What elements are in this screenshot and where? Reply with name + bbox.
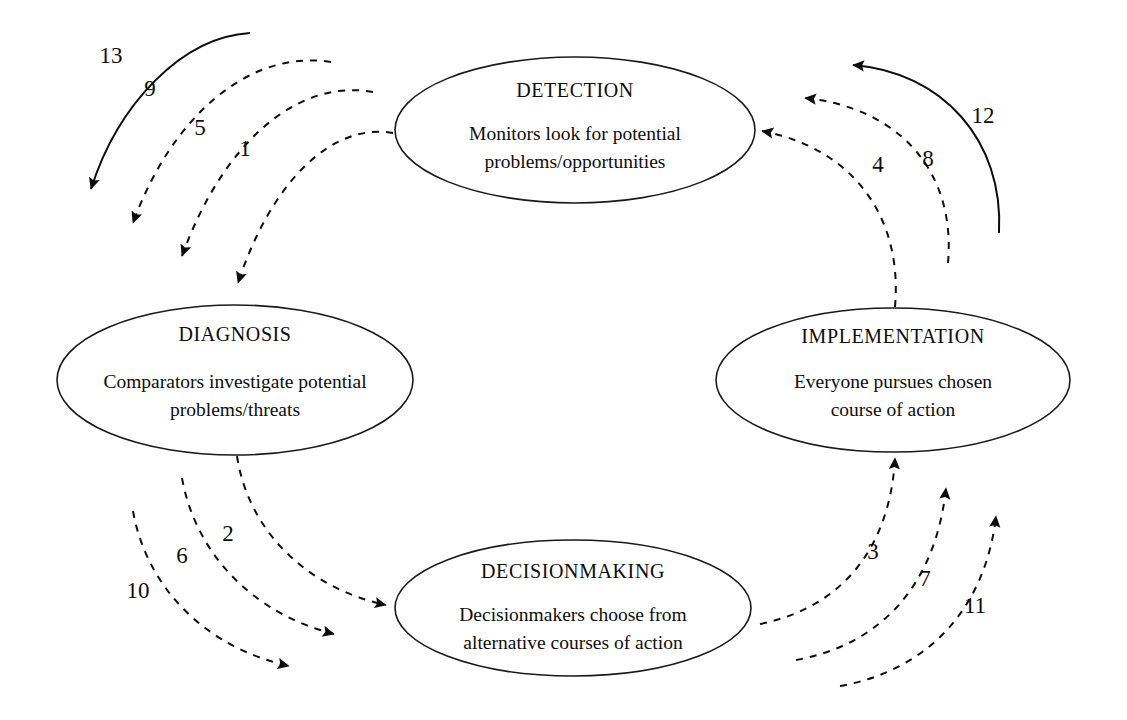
node-diagnosis-desc-line1: Comparators investigate potential — [103, 371, 367, 392]
arrow-path-6 — [182, 478, 334, 634]
node-detection-desc-line2: problems/opportunities — [485, 151, 666, 172]
node-diagnosis[interactable]: DIAGNOSIS Comparators investigate potent… — [57, 305, 413, 455]
node-decisionmaking-desc-line1: Decisionmakers choose from — [459, 604, 686, 625]
node-implementation-desc-line2: course of action — [831, 399, 956, 420]
node-implementation[interactable]: IMPLEMENTATION Everyone pursues chosen c… — [716, 308, 1070, 452]
node-decisionmaking-desc-line2: alternative courses of action — [463, 632, 683, 653]
step-label-6: 6 — [176, 543, 188, 568]
step-label-8: 8 — [922, 146, 934, 171]
arrow-path-2 — [237, 456, 386, 605]
node-detection-title: DETECTION — [516, 79, 634, 101]
step-label-10: 10 — [127, 578, 150, 603]
node-diagnosis-desc-line2: problems/threats — [170, 399, 300, 420]
step-label-12: 12 — [972, 103, 995, 128]
step-label-11: 11 — [964, 593, 986, 618]
node-decisionmaking[interactable]: DECISIONMAKING Decisionmakers choose fro… — [395, 540, 751, 676]
diagram-canvas: DETECTION Monitors look for potential pr… — [0, 0, 1127, 720]
step-label-5: 5 — [194, 115, 206, 140]
arrow-path-9 — [133, 60, 331, 223]
node-implementation-desc-line1: Everyone pursues chosen — [794, 371, 992, 392]
step-label-1: 1 — [239, 136, 251, 161]
step-label-3: 3 — [867, 539, 879, 564]
arrow-group-diagnosis-to-decisionmaking — [133, 456, 386, 666]
step-label-7: 7 — [919, 566, 931, 591]
arrow-path-10 — [133, 511, 289, 666]
arrow-path-8 — [805, 98, 949, 263]
arrow-path-1 — [238, 132, 393, 283]
step-label-13: 13 — [100, 43, 123, 68]
arrow-group-implementation-to-detection — [762, 65, 999, 307]
node-implementation-title: IMPLEMENTATION — [801, 325, 984, 347]
step-label-9: 9 — [144, 76, 156, 101]
step-label-2: 2 — [222, 521, 234, 546]
node-decisionmaking-title: DECISIONMAKING — [481, 560, 665, 582]
node-detection-desc-line1: Monitors look for potential — [469, 123, 681, 144]
step-label-4: 4 — [872, 152, 884, 177]
node-diagnosis-title: DIAGNOSIS — [178, 323, 291, 345]
process-cycle-diagram: DETECTION Monitors look for potential pr… — [0, 0, 1127, 720]
arrow-group-decisionmaking-to-implementation — [760, 458, 996, 686]
node-detection[interactable]: DETECTION Monitors look for potential pr… — [395, 57, 755, 203]
arrow-path-5 — [182, 90, 373, 256]
